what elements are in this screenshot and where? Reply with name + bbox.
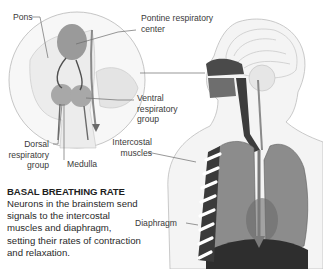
label-medulla: Medulla — [67, 159, 97, 170]
label-dorsal-respiratory-group: Dorsal respiratory group — [5, 139, 49, 171]
label-pontine-respiratory-center: Pontine respiratory center — [141, 13, 213, 34]
caption-title: BASAL BREATHING RATE — [7, 186, 125, 197]
brainstem-inset — [9, 12, 145, 148]
label-intercostal-muscles: Intercostal muscles — [104, 137, 152, 158]
label-ventral-respiratory-group: Ventral respiratory group — [137, 93, 178, 125]
caption-text: Neurons in the brainstem send signals to… — [7, 198, 142, 259]
oral-cavity — [208, 78, 236, 98]
heart — [246, 198, 278, 242]
label-pons: Pons — [13, 12, 33, 23]
